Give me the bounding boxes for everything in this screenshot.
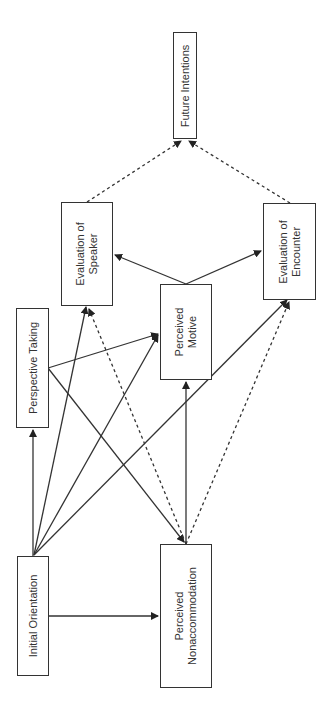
node-label: Future Intentions: [179, 44, 192, 127]
node-initial-orientation: Initial Orientation: [17, 556, 49, 676]
edge-initial-to-motive: [34, 335, 158, 555]
node-perspective-taking: Perspective Taking: [16, 308, 49, 428]
node-evaluation-of-encounter: Evaluation of Encounter: [263, 203, 316, 300]
edge-speaker-to-future: [87, 141, 181, 202]
node-future-intentions: Future Intentions: [173, 32, 197, 139]
node-label: Evaluation of Speaker: [74, 222, 100, 286]
node-label: Perceived Motive: [173, 308, 199, 357]
node-perceived-motive: Perceived Motive: [160, 284, 212, 380]
node-label: Perceived Nonaccommodation: [173, 567, 199, 665]
edge-encounter-to-future: [189, 141, 290, 203]
node-label: Evaluation of Encounter: [277, 220, 303, 284]
node-label: Initial Orientation: [27, 575, 40, 658]
edge-motive-to-speaker: [115, 255, 186, 284]
edge-motive-to-encounter: [186, 251, 261, 284]
edge-perspective-to-motive: [48, 334, 158, 368]
node-evaluation-of-speaker: Evaluation of Speaker: [61, 202, 113, 306]
edge-perspective-to-nonaccommodation: [48, 368, 184, 542]
node-perceived-nonaccommodation: Perceived Nonaccommodation: [160, 544, 212, 688]
node-label: Perspective Taking: [26, 322, 39, 414]
